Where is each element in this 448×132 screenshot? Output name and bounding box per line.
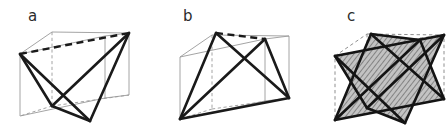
panel-a: a — [0, 0, 149, 132]
panel-a-drawing — [0, 0, 149, 132]
tetra-hidden-edge-a — [20, 33, 129, 54]
panel-c: c — [299, 0, 448, 132]
tetra-visible-edges-a — [20, 33, 129, 121]
panel-b-drawing — [149, 0, 298, 132]
cube-visible-edges-a — [20, 32, 129, 116]
figure-container: a — [0, 0, 448, 132]
panel-b: b — [149, 0, 298, 132]
panel-c-drawing — [299, 0, 448, 132]
cube-hidden-edges-a — [20, 32, 129, 116]
